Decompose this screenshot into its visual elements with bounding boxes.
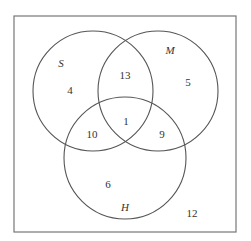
region-s-and-h-count: 10 <box>87 129 98 140</box>
region-s-only-count: 4 <box>67 85 73 96</box>
region-h-only-count: 6 <box>105 179 111 190</box>
region-outside-count: 12 <box>187 208 198 219</box>
set-label-s: S <box>58 58 64 69</box>
region-m-only-count: 5 <box>185 77 191 88</box>
set-circle-m <box>98 31 218 151</box>
set-label-h: H <box>121 202 129 213</box>
region-m-and-h-count: 9 <box>159 129 165 140</box>
region-s-and-m-count: 13 <box>120 70 131 81</box>
set-label-m: M <box>165 45 174 56</box>
region-all-three-count: 1 <box>123 116 129 127</box>
